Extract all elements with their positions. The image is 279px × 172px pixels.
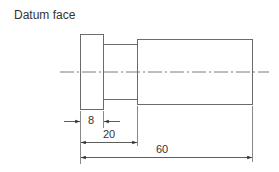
dim-label-8: 8 bbox=[88, 114, 94, 126]
dim-label-60: 60 bbox=[156, 143, 168, 155]
shaft-drawing bbox=[0, 0, 279, 172]
technical-drawing: Datum face 8 20 60 bbox=[0, 0, 279, 172]
dim-label-20: 20 bbox=[103, 128, 115, 140]
